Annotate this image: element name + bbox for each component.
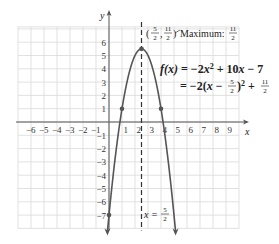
x-tick-label: −3	[65, 125, 75, 135]
annotations: (52,112)Maximum:112f(x) = −2x2 + 10x − 7…	[143, 25, 269, 223]
symmetry-label: x =	[143, 209, 158, 220]
equation-line-2b: )2 +	[237, 79, 255, 93]
svg-text:2: 2	[230, 87, 234, 95]
x-tick-label: −2	[78, 125, 88, 135]
x-tick-label: 6	[189, 125, 194, 135]
x-tick-label: −6	[26, 125, 36, 135]
symmetry-fraction: 52	[161, 206, 169, 223]
equation-line-2: = −2(x −	[180, 79, 223, 93]
y-tick-label: −4	[96, 171, 106, 181]
x-tick-label: 3	[150, 125, 155, 135]
axes: xy	[16, 10, 250, 230]
data-point	[120, 106, 125, 111]
x-tick-label: −5	[39, 125, 49, 135]
y-tick-label: 1	[102, 104, 107, 114]
vertex-x-fraction: 52	[151, 25, 159, 42]
svg-text:2: 2	[231, 34, 235, 42]
x-tick-label: −4	[52, 125, 62, 135]
parabola-chart: xy −6−5−4−3−2−1123456789654321−1−2−3−4−5…	[0, 0, 279, 244]
y-tick-label: −7	[96, 211, 106, 221]
svg-text:2: 2	[166, 34, 170, 42]
x-tick-label: 9	[228, 125, 233, 135]
data-point	[139, 47, 144, 52]
y-tick-label: −5	[96, 184, 106, 194]
y-tick-label: −1	[96, 131, 106, 141]
x-tick-label: 1	[124, 125, 129, 135]
y-tick-label: 2	[102, 91, 107, 101]
y-tick-label: 3	[102, 78, 107, 88]
x-axis-label: x	[244, 126, 250, 137]
vertex-comma: ,	[160, 28, 163, 39]
svg-text:2: 2	[153, 34, 157, 42]
eq-fraction-5-2: 52	[228, 78, 236, 95]
y-axis-label: y	[99, 10, 105, 21]
y-tick-label: 4	[102, 64, 107, 74]
svg-text:2: 2	[163, 215, 167, 223]
x-tick-label: 2	[137, 125, 142, 135]
x-tick-label: 8	[215, 125, 220, 135]
svg-text:5: 5	[153, 25, 157, 33]
svg-text:5: 5	[163, 206, 167, 214]
y-tick-label: −6	[96, 197, 106, 207]
data-point	[107, 213, 112, 218]
svg-text:11: 11	[262, 78, 269, 86]
svg-text:5: 5	[230, 78, 234, 86]
vertex-y-fraction: 112	[164, 25, 172, 42]
parabola-curve	[104, 22, 178, 235]
x-tick-label: 7	[202, 125, 207, 135]
svg-text:2: 2	[263, 87, 267, 95]
y-tick-label: −3	[96, 157, 106, 167]
y-tick-label: 5	[102, 51, 107, 61]
y-tick-label: 6	[102, 38, 107, 48]
maximum-label: Maximum:	[180, 28, 224, 39]
x-tick-label: 5	[176, 125, 181, 135]
maximum-value-fraction: 112	[229, 25, 237, 42]
parabola-path	[107, 49, 175, 232]
vertex-label-open-paren: (	[146, 28, 150, 40]
y-tick-label: −2	[96, 144, 106, 154]
equation-line-1: f(x) = −2x2 + 10x − 7	[160, 62, 263, 76]
eq-fraction-11-2: 112	[261, 78, 269, 95]
vertex-label-close-paren: )	[173, 28, 176, 40]
data-point	[159, 106, 164, 111]
svg-text:11: 11	[165, 25, 172, 33]
svg-text:11: 11	[230, 25, 237, 33]
